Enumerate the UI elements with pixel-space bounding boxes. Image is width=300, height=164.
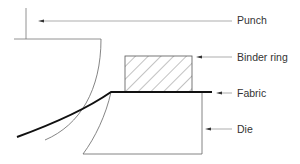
fabric — [17, 92, 212, 137]
die — [83, 92, 202, 154]
label-punch: Punch — [237, 15, 267, 26]
binder-ring — [125, 56, 192, 92]
label-die: Die — [237, 124, 253, 135]
label-fabric: Fabric — [237, 88, 266, 99]
label-binder-ring: Binder ring — [237, 52, 288, 63]
